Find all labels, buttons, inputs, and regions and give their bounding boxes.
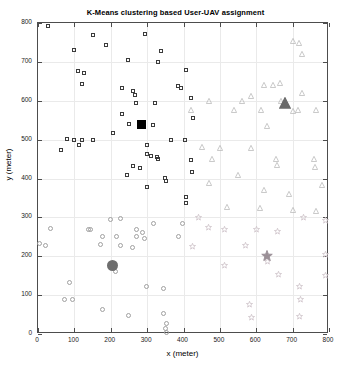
- chart-title: K-Means clustering based User-UAV assign…: [0, 8, 351, 17]
- y-tick-mark-right: [323, 295, 327, 296]
- x-tick-label: 700: [277, 336, 307, 343]
- data-point-star: [246, 294, 253, 312]
- data-point-circle: [134, 227, 139, 232]
- data-point-square: [131, 164, 135, 168]
- data-point-square: [104, 43, 108, 47]
- x-tick-mark: [256, 328, 257, 332]
- data-point-square: [153, 101, 157, 105]
- centroid-star: [261, 248, 273, 266]
- y-tick-mark: [38, 256, 42, 257]
- data-point-circle: [126, 313, 131, 318]
- data-point-triangle: [286, 183, 292, 201]
- data-point-triangle: [209, 148, 215, 166]
- gridline-horizontal: [38, 101, 327, 102]
- data-point-circle: [48, 226, 53, 231]
- data-point-star: [195, 207, 202, 225]
- data-point-star: [221, 219, 228, 237]
- y-tick-mark-right: [323, 23, 327, 24]
- x-tick-label: 800: [313, 336, 343, 343]
- centroid-square: [137, 120, 146, 129]
- data-point-square: [149, 154, 153, 158]
- data-point-square: [184, 201, 188, 205]
- x-tick-mark: [184, 328, 185, 332]
- x-tick-mark: [38, 328, 39, 332]
- data-point-square: [138, 166, 142, 170]
- data-point-star: [296, 276, 303, 294]
- data-point-star: [322, 244, 329, 262]
- data-point-circle: [100, 307, 105, 312]
- data-point-circle: [151, 221, 156, 226]
- data-point-circle: [100, 234, 105, 239]
- data-point-circle: [67, 280, 72, 285]
- centroid-circle: [107, 260, 118, 271]
- gridline-horizontal: [38, 295, 327, 296]
- data-point-triangle: [278, 90, 284, 108]
- data-point-triangle: [257, 197, 263, 215]
- plot-area: [37, 22, 328, 333]
- y-tick-mark: [38, 140, 42, 141]
- data-point-star: [322, 210, 329, 228]
- figure-canvas: K-Means clustering based User-UAV assign…: [0, 0, 351, 370]
- data-point-triangle: [312, 156, 318, 174]
- data-point-circle: [164, 321, 169, 326]
- data-point-circle: [88, 227, 93, 232]
- x-axis-label: x (meter): [37, 349, 328, 358]
- y-tick-label: 300: [4, 212, 32, 219]
- data-point-star: [205, 217, 212, 235]
- x-tick-mark: [293, 328, 294, 332]
- data-point-circle: [134, 234, 139, 239]
- x-tick-mark-top: [111, 23, 112, 27]
- x-tick-mark: [111, 328, 112, 332]
- y-tick-mark: [38, 101, 42, 102]
- data-point-circle: [86, 227, 91, 232]
- data-point-circle: [118, 243, 123, 248]
- gridline-horizontal: [38, 140, 327, 141]
- data-point-triangle: [277, 72, 283, 90]
- y-tick-mark-right: [323, 140, 327, 141]
- y-tick-label: 700: [4, 57, 32, 64]
- gridline-vertical: [256, 23, 257, 332]
- data-point-triangle: [264, 115, 270, 133]
- data-point-square: [133, 93, 137, 97]
- data-point-triangle: [224, 196, 230, 214]
- gridline-vertical: [220, 23, 221, 332]
- data-point-circle: [113, 269, 118, 274]
- y-tick-label: 800: [4, 18, 32, 25]
- gridline-horizontal: [38, 256, 327, 257]
- data-point-square: [176, 84, 180, 88]
- data-point-triangle: [206, 172, 212, 190]
- data-point-square: [82, 71, 86, 75]
- y-tick-label: 0: [4, 329, 32, 336]
- data-point-square: [189, 158, 193, 162]
- x-tick-label: 400: [168, 336, 198, 343]
- data-point-square: [127, 122, 131, 126]
- data-point-triangle: [299, 43, 305, 61]
- gridline-horizontal: [38, 62, 327, 63]
- data-point-triangle: [273, 148, 279, 166]
- data-point-circle: [161, 311, 166, 316]
- x-tick-mark: [220, 328, 221, 332]
- x-tick-mark: [147, 328, 148, 332]
- x-tick-label: 0: [22, 336, 52, 343]
- y-tick-mark-right: [323, 256, 327, 257]
- data-point-triangle: [274, 154, 280, 172]
- data-point-circle: [163, 326, 168, 331]
- data-point-square: [91, 33, 95, 37]
- data-point-star: [296, 306, 303, 324]
- data-point-circle: [43, 243, 48, 248]
- x-tick-mark-top: [220, 23, 221, 27]
- x-tick-mark-top: [256, 23, 257, 27]
- x-tick-label: 100: [58, 336, 88, 343]
- gridline-horizontal: [38, 217, 327, 218]
- data-point-circle: [140, 230, 145, 235]
- data-point-circle: [161, 286, 166, 291]
- data-point-square: [151, 123, 155, 127]
- x-tick-mark-top: [147, 23, 148, 27]
- y-tick-mark: [38, 62, 42, 63]
- data-point-square: [80, 82, 84, 86]
- data-point-star: [242, 235, 249, 253]
- y-tick-mark: [38, 23, 42, 24]
- y-tick-mark-right: [323, 62, 327, 63]
- data-point-triangle: [261, 74, 267, 92]
- data-point-circle: [62, 297, 67, 302]
